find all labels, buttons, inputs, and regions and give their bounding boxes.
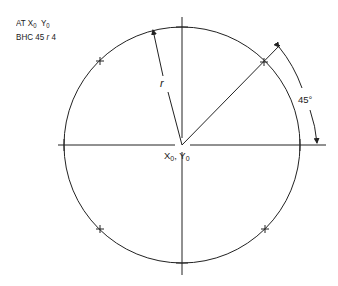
angle-extension-line	[182, 45, 280, 145]
angle-arc-upper	[279, 47, 302, 88]
radius-label: r	[160, 77, 165, 89]
radius-line-upper	[153, 30, 163, 76]
angle-label: 45°	[298, 94, 313, 105]
angle-arc-lower	[310, 110, 317, 143]
radius-line-lower	[168, 92, 182, 145]
bolt-hole-circle-diagram: r 45° X0, Y0	[0, 0, 338, 286]
center-label: X0, Y0	[164, 150, 190, 162]
